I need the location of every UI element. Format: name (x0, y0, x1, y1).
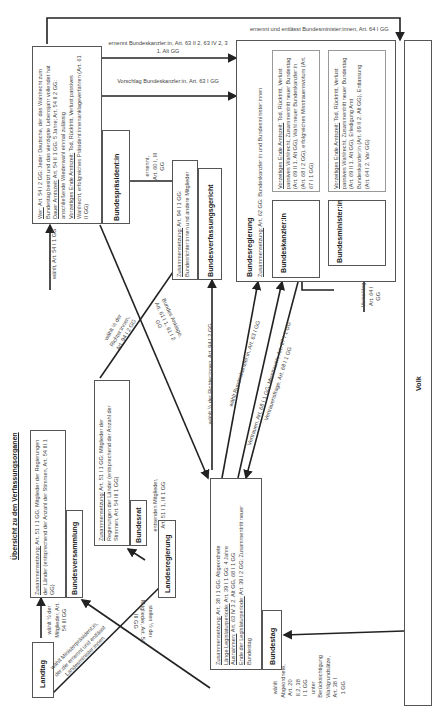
diagram-title: Übersicht zu den Verfassungsorganen (10, 432, 20, 560)
composition-label: Zusammensetzung: (98, 492, 104, 541)
bverfg-label: Bundesverfassungsgericht (206, 184, 216, 277)
node-bundesminister[interactable]: Bundesminister:in (328, 200, 386, 266)
node-bundeskanzler[interactable]: Bundeskanzler:in (272, 200, 320, 278)
node-volk[interactable]: Volk (404, 40, 432, 706)
bundesminister-details-box: Vorzeitiges Ende Amtszeit: Tod, Rücktrit… (328, 50, 386, 192)
bundespraesident-label: Bundespräsident:in (112, 154, 122, 222)
bundesversammlung-title-box: Bundesversammlung (66, 510, 83, 598)
volk-label: Volk (414, 376, 424, 391)
bundeskanzler-details: Vorzeitiges Ende Amtszeit: Tod, Rücktrit… (277, 55, 316, 189)
node-bundespraesident[interactable]: Wer: Art. 54 I 2 GG: Jeder Deutsche, der… (32, 46, 102, 224)
edge-label-bp-minister: ernennt und entlässt Bundesminister:inne… (250, 26, 389, 34)
edge-label-bv-bp: wählt, Art. 54 I 1 GG (51, 229, 59, 279)
bverfg-title-box: Bundesverfassungsgericht (198, 168, 222, 280)
node-bundesverfassungsgericht[interactable]: Zusammensetzung: Art. 94 I 1 GG: Bundesr… (172, 160, 198, 280)
edge-label-bp-breg-vorschlag: Vorschlag Bundeskanzler:in, Art. 63 I GG (108, 78, 228, 86)
bundestag-details: Zusammensetzung: Art. 38 I 1 GG: Abgeord… (215, 485, 254, 665)
edge-label-bp-bverfg: ernennt, Art. 60 I, III GG (144, 151, 167, 181)
landesregierung-label: Landesregierung (163, 535, 173, 593)
node-bundestag[interactable]: Zusammensetzung: Art. 38 I 1 GG: Abgeord… (210, 478, 262, 670)
node-bundesrat[interactable]: Zusammensetzung: Art. 51 I 1 GG: Mitglie… (94, 380, 130, 546)
bundesminister-details: Vorzeitiges Ende Amtszeit: Tod, Rücktrit… (333, 55, 372, 189)
bundesrat-label: Bundesrat (134, 507, 144, 543)
bundespraesident-title-box: Bundespräsident:in (102, 130, 130, 224)
bundesminister-label: Bundesminister:in (335, 200, 345, 263)
bundesrat-composition: Zusammensetzung: Art. 51 I 1 GG: Mitglie… (98, 391, 121, 541)
edge-label-volk-bt: wählt Abgeordnete, Art. 20 II 2, 38 I 1 … (272, 678, 347, 698)
bundeskanzler-details-box: Vorzeitiges Ende Amtszeit: Tod, Rücktrit… (272, 50, 320, 192)
bundespraesident-details: Wer: Art. 54 I 2 GG: Jeder Deutsche, der… (37, 51, 91, 219)
bundestag-title-box: Bundestag (262, 610, 282, 670)
edge-label-bt-bverfg: wählt ½ der Richter:innen, Art. 94 I 2 G… (207, 323, 215, 424)
bundestag-label: Bundestag (268, 628, 278, 665)
edge-label-bp-breg-ernennt: ernennt Bundeskanzler:in, Art. 63 II 2, … (108, 40, 228, 55)
bundesversammlung-composition: Zusammensetzung: Art. 51 I 1 GG: Mitglie… (34, 435, 57, 595)
composition-label: Zusammensetzung: (34, 546, 40, 595)
bundesversammlung-label: Bundesversammlung (70, 522, 80, 595)
edge-label-kanzler-minister: Vorschlag, Art. 64 I GG (360, 285, 383, 307)
bundesrat-title-box: Bundesrat (130, 500, 147, 546)
bundeskanzler-label: Bundeskanzler:in (279, 213, 289, 273)
bundesregierung-label: Bundesregierung (245, 217, 255, 277)
bverfg-composition: Zusammensetzung: Art. 94 I 1 GG: Bundesr… (176, 165, 191, 277)
edge-label-lreg-bv: stellen ½ der Mitglieder, Art. 54 III GG (131, 599, 154, 644)
edge-label-landtag-bv: wählt ½ der Mitglieder, Art. 54 III GG (46, 600, 69, 640)
node-bundesversammlung[interactable]: Zusammensetzung: Art. 51 I 1 GG: Mitglie… (30, 430, 66, 598)
edge-label-lreg-br: entsenden Mitglieder, Art. 51 I 1, III 1… (152, 475, 167, 535)
bundesregierung-composition: Zusammensetzung: Art. 62 GG: Bundeskanzl… (257, 37, 265, 277)
